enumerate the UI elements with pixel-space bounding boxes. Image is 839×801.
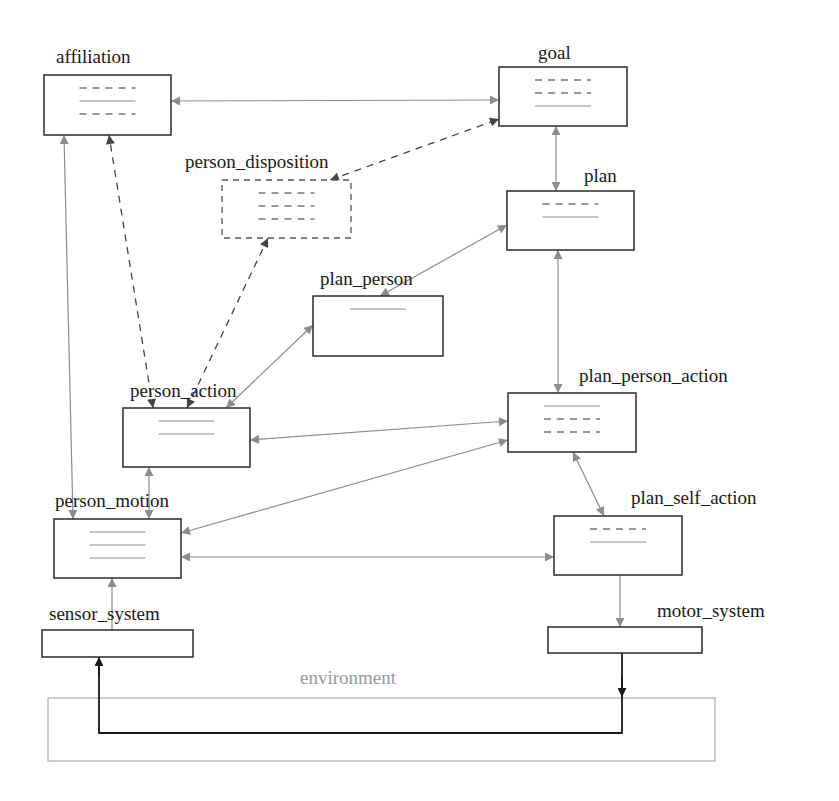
node-box[interactable] bbox=[222, 180, 351, 238]
node-label: plan_self_action bbox=[631, 487, 757, 508]
node-plan-person-action[interactable]: plan_person_action bbox=[508, 365, 728, 452]
node-sensor-system[interactable]: sensor_system bbox=[42, 603, 193, 657]
node-label: sensor_system bbox=[49, 603, 160, 624]
edge-person_disposition-goal bbox=[330, 119, 499, 180]
nodes-layer: affiliationgoalperson_dispositionplanpla… bbox=[42, 42, 765, 657]
node-label: person_disposition bbox=[185, 151, 329, 172]
environment-box bbox=[48, 698, 715, 761]
node-motor-system[interactable]: motor_system bbox=[548, 600, 765, 653]
edge-person_action-affiliation bbox=[109, 135, 153, 408]
node-person-disposition[interactable]: person_disposition bbox=[185, 151, 351, 238]
node-plan[interactable]: plan bbox=[507, 165, 634, 250]
node-box[interactable] bbox=[548, 627, 702, 653]
node-box[interactable] bbox=[508, 393, 636, 452]
node-box[interactable] bbox=[554, 516, 682, 575]
edge-person_action-plan_person_action bbox=[250, 421, 508, 440]
edge-goal-affiliation bbox=[171, 100, 499, 101]
node-label: plan bbox=[584, 165, 617, 186]
environment-layer: environment bbox=[48, 667, 715, 761]
node-box[interactable] bbox=[313, 296, 443, 356]
node-label: motor_system bbox=[657, 600, 765, 621]
environment-label: environment bbox=[300, 667, 397, 688]
node-plan-self-action[interactable]: plan_self_action bbox=[554, 487, 757, 575]
node-box[interactable] bbox=[54, 519, 181, 578]
edge-plan_person_action-plan_self_action bbox=[573, 452, 604, 516]
node-label: plan_person bbox=[320, 268, 413, 289]
edge-person_motion-affiliation bbox=[64, 135, 73, 519]
node-box[interactable] bbox=[42, 630, 193, 657]
node-goal[interactable]: goal bbox=[499, 42, 627, 126]
node-affiliation[interactable]: affiliation bbox=[44, 46, 171, 135]
node-person-action[interactable]: person_action bbox=[123, 380, 250, 467]
node-box[interactable] bbox=[507, 191, 634, 250]
node-box[interactable] bbox=[123, 408, 250, 467]
node-label: goal bbox=[538, 42, 571, 63]
node-label: affiliation bbox=[56, 46, 131, 67]
architecture-diagram: environment affiliationgoalperson_dispos… bbox=[0, 0, 839, 801]
node-label: person_action bbox=[130, 380, 237, 401]
node-label: person_motion bbox=[55, 490, 169, 511]
node-box[interactable] bbox=[44, 75, 171, 135]
node-label: plan_person_action bbox=[579, 365, 728, 386]
node-person-motion[interactable]: person_motion bbox=[54, 490, 181, 578]
node-box[interactable] bbox=[499, 67, 627, 126]
node-plan-person[interactable]: plan_person bbox=[313, 268, 443, 356]
edge-motor-environment-sensor bbox=[99, 653, 622, 733]
edge-person_action-plan_person bbox=[226, 325, 313, 408]
